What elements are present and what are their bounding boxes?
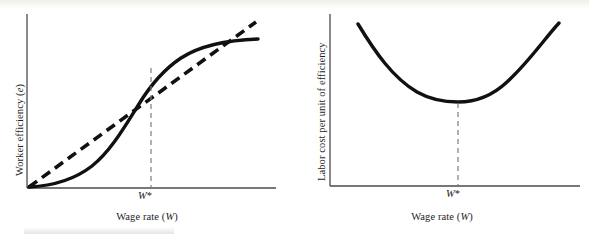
labor-cost-panel: Labor cost per unit of efficiency W* Wag… [295,0,589,234]
labor-cost-plot [295,0,589,234]
x-axis-label-text: Wage rate ( [411,211,460,222]
y-axis-label: Labor cost per unit of efficiency [316,42,327,181]
x-axis-label: Wage rate (W) [0,211,294,222]
w-star-tick-label: W* [138,190,152,201]
y-axis-label-variable: e [14,88,25,93]
efficiency-wage-figure: Worker efficiency (e) W* Wage rate (W) L… [0,0,589,234]
tangent-ray-dashed [29,22,256,187]
y-axis-label-text: Worker efficiency ( [14,92,25,176]
x-axis-label-close: ) [174,211,178,222]
y-axis-label-text: Labor cost per unit of efficiency [316,42,327,181]
x-axis-label-text: Wage rate ( [116,211,165,222]
x-axis-label-close: ) [469,211,473,222]
w-star-variable: W [138,190,147,201]
x-axis-label: Wage rate (W) [295,211,589,222]
w-star-variable: W [446,188,455,199]
worker-efficiency-panel: Worker efficiency (e) W* Wage rate (W) [0,0,294,234]
y-axis-label-close: ) [14,84,25,88]
w-star-asterisk: * [147,190,152,201]
x-axis-label-variable: W [460,211,469,222]
x-axis-label-variable: W [165,211,174,222]
w-star-tick-label: W* [446,188,460,199]
w-star-asterisk: * [455,188,460,199]
effort-curve-solid [29,39,258,187]
y-axis-label: Worker efficiency (e) [14,84,25,176]
cost-curve-solid [358,23,559,102]
